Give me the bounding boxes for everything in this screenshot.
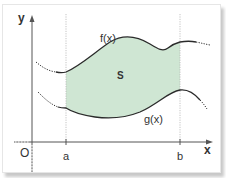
area-between-curves-diagram — [0, 0, 226, 178]
curve-f-dotted-right — [196, 42, 210, 45]
f-curve-label: f(x) — [100, 32, 116, 44]
y-axis-arrow-icon — [30, 15, 35, 22]
curve-g-dotted-left — [38, 92, 58, 107]
y-axis-label: y — [18, 12, 25, 24]
a-label: a — [63, 150, 69, 162]
region-s-label: S — [117, 70, 124, 82]
x-axis-label: x — [204, 144, 211, 156]
b-label: b — [177, 150, 183, 162]
origin-label: O — [20, 147, 29, 159]
g-curve-label: g(x) — [144, 113, 163, 125]
curve-g-dotted-right — [200, 100, 207, 109]
curve-f-dotted-left — [36, 62, 56, 72]
